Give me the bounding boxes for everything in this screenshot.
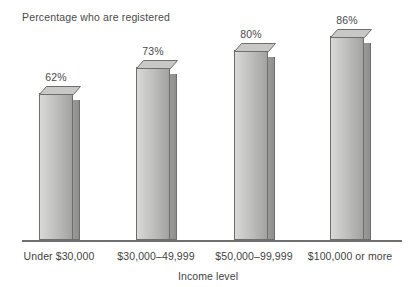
- bar-front-face: [330, 36, 364, 240]
- bar-value-label: 86%: [317, 14, 377, 26]
- x-axis-line: [22, 240, 402, 242]
- bar-front-face: [39, 93, 73, 240]
- bar-side-face: [73, 100, 80, 240]
- bar-chart: Percentage who are registered 62% Under …: [0, 0, 416, 287]
- bar-front-face: [234, 50, 268, 240]
- bar-column: [234, 50, 275, 240]
- bar-value-label: 80%: [221, 28, 281, 40]
- x-axis-title: Income level: [0, 270, 416, 282]
- bar-value-label: 73%: [123, 45, 183, 57]
- bar-side-face: [364, 43, 371, 240]
- x-axis-category-label: $100,000 or more: [290, 250, 410, 262]
- bar-side-face: [170, 74, 177, 240]
- bar-top-face: [234, 43, 275, 51]
- bar-column: [330, 36, 371, 240]
- bar-top-face: [39, 86, 80, 94]
- bar-column: [136, 67, 177, 240]
- bar-top-face: [330, 29, 371, 37]
- bar-side-face: [268, 57, 275, 240]
- bar-column: [39, 93, 80, 240]
- bar-value-label: 62%: [26, 71, 86, 83]
- bar-front-face: [136, 67, 170, 240]
- bar-top-face: [136, 60, 177, 68]
